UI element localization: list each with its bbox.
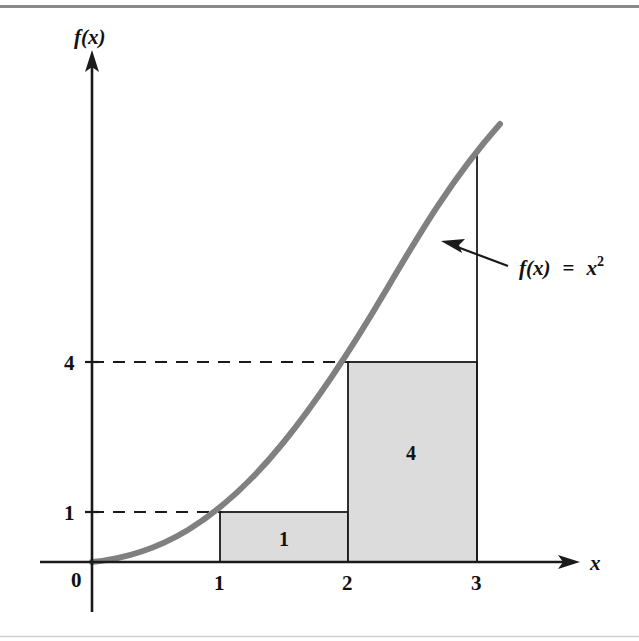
function-annotation: f(x)=x2 (519, 254, 604, 280)
figure-container: f(x) x 0 1 2 3 1 4 1 4 f(x)=x2 (0, 0, 639, 641)
rectangle-label-1: 1 (279, 528, 289, 550)
y-tick-label-4: 4 (64, 351, 75, 375)
origin-label: 0 (71, 568, 82, 592)
annotation-arrow-shaft (452, 245, 508, 266)
rectangle-label-4: 4 (406, 442, 416, 464)
x-tick-label-1: 1 (214, 571, 225, 595)
x-axis-label: x (589, 551, 601, 575)
function-annotation-equals: = (562, 256, 574, 280)
y-axis-label: f(x) (74, 25, 105, 49)
annotation-arrowhead (441, 239, 465, 253)
function-annotation-base: x (585, 256, 597, 280)
svg-text:f(x)=x2: f(x)=x2 (519, 254, 604, 280)
x-tick-label-3: 3 (471, 571, 482, 595)
function-annotation-name: f(x) (519, 256, 550, 280)
y-tick-label-1: 1 (64, 501, 75, 525)
function-annotation-exponent: 2 (597, 254, 604, 269)
x-tick-label-2: 2 (342, 571, 353, 595)
math-figure-svg: f(x) x 0 1 2 3 1 4 1 4 f(x)=x2 (0, 0, 639, 641)
